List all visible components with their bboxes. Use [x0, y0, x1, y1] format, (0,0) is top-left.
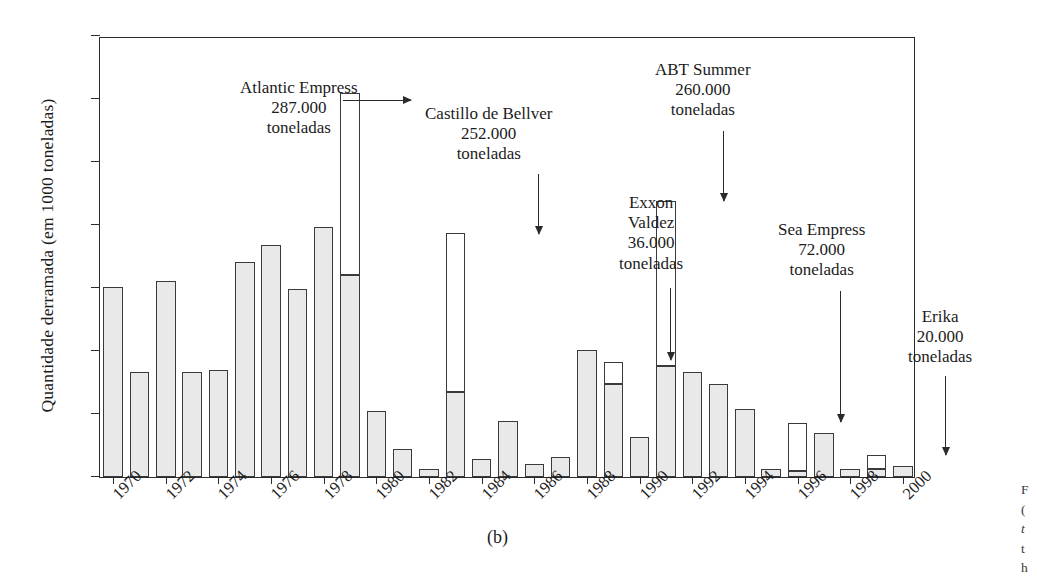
bar-segment-base [630, 437, 649, 477]
annotation-line: toneladas [655, 100, 751, 120]
bar-segment-base [472, 459, 491, 477]
bar-segment-base [182, 372, 201, 477]
bar-segment-accident [788, 423, 807, 470]
bar-segment-base [209, 370, 228, 477]
bar-1976[interactable] [261, 245, 280, 477]
bar-1983[interactable] [446, 233, 465, 477]
bar-1994[interactable] [735, 409, 754, 477]
bar-1990[interactable] [630, 437, 649, 477]
bar-1979[interactable] [340, 93, 359, 477]
annotation-line: 36.000 [619, 233, 683, 253]
bar-1988[interactable] [577, 350, 596, 477]
y-axis-tick [91, 161, 100, 162]
bar-segment-base [683, 372, 702, 477]
annotation-line: toneladas [619, 254, 683, 274]
y-axis-tick [91, 224, 100, 225]
y-axis-tick [91, 413, 100, 414]
bar-1998[interactable] [840, 469, 859, 477]
bar-1989[interactable] [604, 362, 623, 477]
annotation-line: Valdez [619, 213, 683, 233]
annotation-line: 20.000 [908, 327, 972, 347]
bar-segment-base [103, 287, 122, 477]
side-caption-line: h [1021, 558, 1037, 576]
annotation-arrow-erika [945, 376, 946, 455]
bar-1971[interactable] [130, 372, 149, 477]
annotation-line: 252.000 [425, 124, 552, 144]
y-axis-tick [91, 350, 100, 351]
annotation-line: ABT Summer [655, 60, 751, 80]
annotation-arrow-abt-summer [723, 131, 724, 201]
annotation-arrow-sea-empress [840, 291, 841, 422]
annotation-line: 287.000 [240, 98, 358, 118]
bar-segment-base [446, 392, 465, 477]
annotation-line: toneladas [778, 260, 865, 280]
bar-segment-base [340, 275, 359, 477]
bar-1984[interactable] [472, 459, 491, 477]
annotation-line: toneladas [240, 118, 358, 138]
bar-1996[interactable] [788, 423, 807, 477]
bar-segment-base [314, 227, 333, 477]
side-caption-line: t [1021, 539, 1037, 559]
annotation-arrow-atlantic-empress [343, 100, 411, 101]
bar-segment-base [156, 281, 175, 477]
annotation-atlantic-empress: Atlantic Empress287.000toneladas [240, 78, 358, 139]
annotation-line: 260.000 [655, 80, 751, 100]
bar-1972[interactable] [156, 281, 175, 477]
annotation-sea-empress: Sea Empress72.000toneladas [778, 220, 865, 281]
bar-1975[interactable] [235, 262, 254, 477]
annotation-arrow-castillo-de-bellver [538, 174, 539, 234]
annotation-line: Atlantic Empress [240, 78, 358, 98]
bar-segment-base [840, 469, 859, 477]
bar-1974[interactable] [209, 370, 228, 477]
annotation-castillo-de-bellver: Castillo de Bellver252.000toneladas [425, 104, 552, 165]
bar-segment-base [261, 245, 280, 477]
y-axis-tick [91, 98, 100, 99]
y-axis-tick [91, 476, 100, 477]
oil-spill-bar-chart-figure: Quantidade derramada (em 1000 toneladas)… [0, 0, 1037, 576]
annotation-abt-summer: ABT Summer260.000toneladas [655, 60, 751, 121]
annotation-line: 72.000 [778, 240, 865, 260]
bar-segment-base [604, 384, 623, 477]
bar-1982[interactable] [419, 469, 438, 477]
bar-1986[interactable] [525, 464, 544, 477]
bar-1973[interactable] [182, 372, 201, 477]
bar-segment-base [235, 262, 254, 477]
annotation-line: Exxon [619, 193, 683, 213]
bar-1993[interactable] [709, 384, 728, 477]
annotation-line: Erika [908, 307, 972, 327]
y-axis-tick [91, 287, 100, 288]
bar-1977[interactable] [288, 289, 307, 477]
bar-segment-base [130, 372, 149, 477]
bar-segment-base [288, 289, 307, 477]
bar-1970[interactable] [103, 287, 122, 477]
side-caption-line: t [1021, 519, 1037, 539]
y-axis-title: Quantidade derramada (em 1000 toneladas) [37, 41, 58, 471]
bar-segment-accident [446, 233, 465, 392]
bar-segment-accident [604, 362, 623, 384]
panel-caption: (b) [487, 527, 508, 548]
y-axis-tick [91, 35, 100, 36]
bar-segment-base [525, 464, 544, 477]
bar-2000[interactable] [893, 466, 912, 477]
bar-segment-base [367, 411, 386, 477]
bar-1978[interactable] [314, 227, 333, 477]
side-caption: F(tth [1021, 480, 1037, 576]
side-caption-line: ( [1021, 500, 1037, 520]
annotation-line: Sea Empress [778, 220, 865, 240]
annotation-exxon-valdez: ExxonValdez36.000toneladas [619, 193, 683, 274]
annotation-line: toneladas [908, 347, 972, 367]
annotation-line: Castillo de Bellver [425, 104, 552, 124]
annotation-arrow-exxon-valdez [670, 288, 671, 360]
bar-segment-base [419, 469, 438, 477]
bar-segment-base [893, 466, 912, 477]
bar-segment-base [735, 409, 754, 477]
bar-1992[interactable] [683, 372, 702, 477]
bar-segment-base [709, 384, 728, 477]
bar-1980[interactable] [367, 411, 386, 477]
bar-segment-base [577, 350, 596, 477]
plot-area: 0100200300400500600700 19701972197419761… [99, 37, 915, 478]
bar-segment-base [656, 366, 675, 478]
side-caption-line: F [1021, 480, 1037, 500]
annotation-erika: Erika20.000toneladas [908, 307, 972, 368]
annotation-line: toneladas [425, 144, 552, 164]
